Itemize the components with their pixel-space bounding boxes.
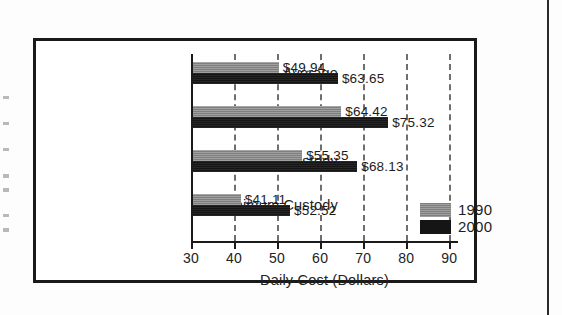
- x-tick-60: [320, 243, 322, 249]
- bar-1990[interactable]: [193, 150, 302, 161]
- legend-label-2000: 2000: [451, 218, 492, 235]
- legend-swatch-1990: [420, 203, 451, 217]
- bar-value-label: $68.13: [357, 159, 404, 174]
- x-tick-90: [449, 243, 451, 249]
- x-tick-label-70: 70: [343, 250, 383, 266]
- legend-swatch-2000: [420, 220, 451, 234]
- x-tick-label-60: 60: [300, 250, 340, 266]
- bar-value-label: $63.65: [338, 71, 385, 86]
- bar-1990[interactable]: [193, 194, 241, 205]
- x-tick-70: [363, 243, 365, 249]
- bar-2000[interactable]: [193, 117, 388, 128]
- page-margin-rule: [547, 0, 549, 315]
- x-tick-30: [191, 243, 193, 249]
- legend-label-1990: 1990: [451, 201, 492, 218]
- x-axis-title: Daily Cost (Dollars): [191, 272, 458, 288]
- bar-value-label: $52.52: [290, 203, 337, 218]
- gridline-80: [406, 54, 408, 241]
- scan-artifact-left-margin: [2, 96, 11, 246]
- plot-area: 30405060708090 Overall AverageClose Cust…: [191, 54, 458, 243]
- legend-item-2000[interactable]: 2000: [420, 218, 492, 235]
- chart-legend: 19902000: [420, 201, 492, 235]
- x-tick-label-30: 30: [171, 250, 211, 266]
- chart-frame: 30405060708090 Overall AverageClose Cust…: [33, 38, 477, 283]
- bar-2000[interactable]: [193, 73, 338, 84]
- x-tick-label-50: 50: [257, 250, 297, 266]
- bar-1990[interactable]: [193, 62, 279, 73]
- x-tick-50: [277, 243, 279, 249]
- bar-1990[interactable]: [193, 106, 341, 117]
- x-tick-label-90: 90: [429, 250, 469, 266]
- legend-item-1990[interactable]: 1990: [420, 201, 492, 218]
- page-background: 30405060708090 Overall AverageClose Cust…: [0, 0, 562, 315]
- x-tick-40: [234, 243, 236, 249]
- bar-value-label: $75.32: [388, 115, 435, 130]
- x-tick-80: [406, 243, 408, 249]
- x-tick-label-80: 80: [386, 250, 426, 266]
- bar-2000[interactable]: [193, 161, 357, 172]
- bar-2000[interactable]: [193, 205, 290, 216]
- x-tick-label-40: 40: [214, 250, 254, 266]
